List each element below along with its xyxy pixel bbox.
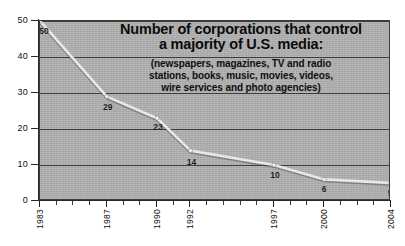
x-tick-mark-1984: [56, 201, 57, 205]
media-ownership-line-chart: 01020304050 1983198719901992199720002004…: [0, 0, 405, 246]
x-tick-label-1983: 1983: [35, 209, 45, 229]
x-tick-mark-1983: [39, 201, 40, 207]
x-tick-mark-2004: [390, 201, 391, 207]
series-line: [40, 21, 390, 200]
data-label-2000: 6: [322, 184, 327, 194]
x-tick-mark-1991: [173, 201, 174, 205]
x-tick-label-2000: 2000: [319, 209, 329, 229]
y-tick-mark-20: [31, 128, 38, 129]
x-tick-mark-2000: [323, 201, 324, 207]
x-tick-mark-2001: [340, 201, 341, 205]
x-tick-mark-2003: [373, 201, 374, 205]
x-tick-label-2004: 2004: [386, 209, 396, 229]
data-label-2004: 5: [388, 188, 390, 198]
data-point-1983: [39, 20, 42, 23]
data-point-2004: [389, 181, 390, 185]
x-tick-mark-1993: [206, 201, 207, 205]
data-point-2000: [322, 177, 326, 181]
x-axis-line: [38, 200, 391, 201]
x-tick-mark-1995: [240, 201, 241, 205]
x-tick-mark-1988: [123, 201, 124, 205]
x-tick-mark-1999: [306, 201, 307, 205]
data-label-1987: 29: [103, 102, 112, 112]
x-tick-mark-1996: [256, 201, 257, 205]
data-point-1987: [105, 95, 109, 99]
y-tick-label-0: 0: [4, 195, 28, 205]
x-tick-mark-1997: [273, 201, 274, 207]
x-tick-label-1987: 1987: [102, 209, 112, 229]
x-tick-mark-1990: [156, 201, 157, 207]
data-label-1997: 10: [270, 170, 279, 180]
x-tick-mark-1989: [139, 201, 140, 205]
y-tick-mark-40: [31, 56, 38, 57]
x-tick-mark-1986: [89, 201, 90, 205]
x-tick-mark-1992: [189, 201, 190, 207]
y-tick-mark-10: [31, 164, 38, 165]
x-tick-mark-1985: [72, 201, 73, 205]
data-point-1997: [272, 163, 276, 167]
y-tick-label-50: 50: [4, 15, 28, 25]
x-tick-mark-1998: [290, 201, 291, 205]
y-tick-mark-50: [31, 20, 38, 21]
series-line-shadow: [40, 22, 390, 184]
x-tick-label-1997: 1997: [269, 209, 279, 229]
y-tick-mark-30: [31, 92, 38, 93]
data-label-1992: 14: [187, 157, 196, 167]
series-line-path: [40, 21, 390, 183]
x-tick-mark-1994: [223, 201, 224, 205]
plot-area: 502923141065: [39, 20, 390, 200]
y-tick-label-40: 40: [4, 51, 28, 61]
data-point-1990: [155, 116, 159, 120]
y-tick-label-10: 10: [4, 159, 28, 169]
y-tick-label-30: 30: [4, 87, 28, 97]
y-tick-label-20: 20: [4, 123, 28, 133]
x-tick-label-1990: 1990: [152, 209, 162, 229]
data-label-1990: 23: [153, 122, 162, 132]
y-tick-mark-0: [31, 200, 38, 201]
data-label-1983: 50: [39, 26, 48, 36]
x-tick-label-1992: 1992: [185, 209, 195, 229]
x-tick-mark-1987: [106, 201, 107, 207]
data-point-1992: [188, 149, 192, 153]
x-tick-mark-2002: [357, 201, 358, 205]
